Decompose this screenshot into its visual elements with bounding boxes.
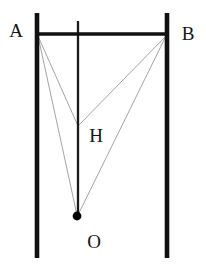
vertex-label-B: B bbox=[182, 23, 195, 44]
figure-background bbox=[0, 0, 206, 266]
geometry-diagram: A B H O bbox=[0, 0, 206, 266]
geometry-figure-canvas: A B H O bbox=[0, 0, 206, 266]
vertex-label-O: O bbox=[87, 231, 101, 252]
vertex-label-H: H bbox=[89, 125, 103, 146]
vertex-label-A: A bbox=[9, 20, 23, 41]
mass-dot-O bbox=[73, 212, 82, 221]
